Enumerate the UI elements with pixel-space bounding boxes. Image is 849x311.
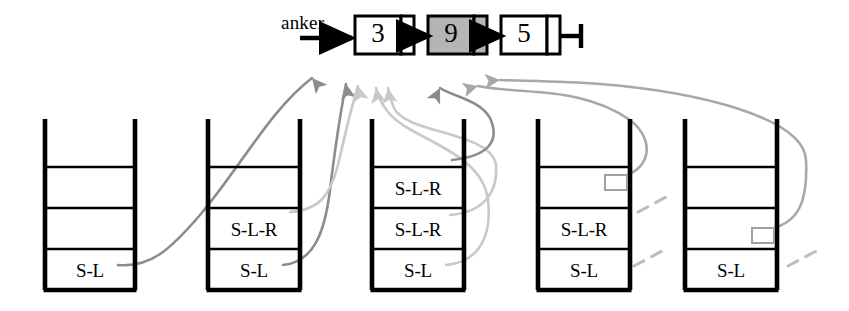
list-node-9-value: 9 [428,20,474,47]
dash-stack5-lower [788,248,822,266]
stack-3-cell-3-label: S-L [372,261,464,280]
stack-5-cell-3-label: S-L [685,261,777,280]
dash-stack4-upper [638,196,668,212]
stack-5-marker-0 [752,228,774,243]
diagram-canvas: S-LS-L-RS-LS-L-RS-L-RS-LS-L-RS-LS-Lanker… [0,0,849,311]
stack-3-cell-1-label: S-L-R [372,179,464,198]
pointer-stack1-to-node3-head [306,73,327,94]
stack-4-cell-2-label: S-L-R [538,220,630,239]
stack-4-cell-3-label: S-L [538,261,630,280]
pointer-stack4-to-node9 [478,86,647,178]
list-node-5-pointer-cell [547,16,560,54]
pointer-stack3-top-to-node9-head [427,85,447,105]
anker-label: anker [281,13,324,32]
dashed-hint-group [634,196,822,266]
pointer-stack4-to-node9-head [462,79,480,97]
list-node-3-value: 3 [355,20,401,47]
list-node-9-pointer-cell [474,16,487,54]
list-node-5-value: 5 [501,20,547,47]
stack-1-cell-3-label: S-L [45,261,135,280]
pointer-stack5-long-to-node9-head [484,73,500,89]
stack-3-cell-2-label: S-L-R [372,220,464,239]
stack-2-cell-2-label: S-L-R [208,220,300,239]
stack-4-marker-0 [605,175,627,190]
dash-stack4-lower [634,250,664,266]
list-node-3-pointer-cell [401,16,414,54]
stack-2-cell-3-label: S-L [208,261,300,280]
